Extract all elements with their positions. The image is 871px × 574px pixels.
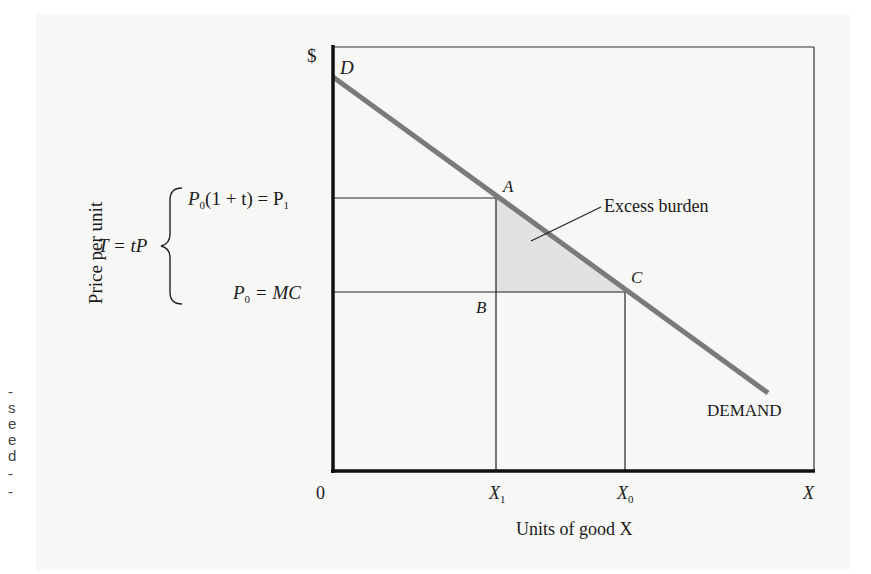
origin-label: 0 <box>316 484 325 502</box>
excess-burden-leader <box>531 207 601 241</box>
y-unit-label: $ <box>307 46 317 65</box>
tax-brace <box>161 188 182 304</box>
p1-axis-label: P0(1 + t) = P1 <box>188 189 289 211</box>
x-axis-title: Units of good X <box>516 520 633 538</box>
point-a-label: A <box>503 178 513 195</box>
diagram-canvas <box>0 0 871 574</box>
tax-label: T = tP <box>98 236 147 255</box>
x1-label: X1 <box>489 484 506 505</box>
p0-axis-label: P0 = MC <box>233 283 301 305</box>
x0-label: X0 <box>617 484 634 505</box>
excess-burden-label: Excess burden <box>604 197 708 215</box>
demand-curve <box>333 77 768 393</box>
point-c-label: C <box>631 269 642 286</box>
x-end-label: X <box>803 484 814 502</box>
demand-label: DEMAND <box>707 402 782 419</box>
point-b-label: B <box>476 299 486 316</box>
demand-intercept-label: D <box>340 58 354 77</box>
